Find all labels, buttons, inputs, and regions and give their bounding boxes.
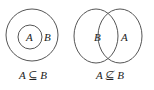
label-b: B: [94, 31, 101, 43]
label-a: A: [25, 31, 33, 43]
venn-diagrams: A B A ⊆ B B A A ⊈ B: [0, 0, 154, 90]
subset-diagram: A B A ⊆ B: [6, 9, 58, 81]
not-subset-diagram: B A A ⊈ B: [74, 9, 142, 81]
label-b: B: [44, 31, 51, 43]
caption-subset: A ⊆ B: [18, 69, 47, 81]
label-a: A: [120, 31, 128, 43]
set-a-ellipse: [98, 9, 142, 63]
caption-not-subset: A ⊈ B: [95, 69, 124, 81]
